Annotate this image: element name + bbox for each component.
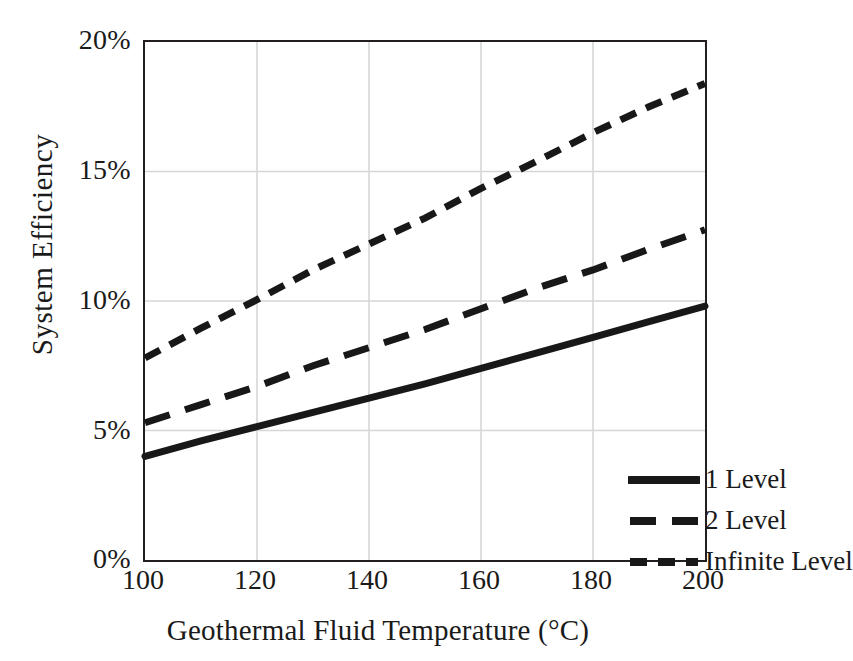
y-axis-title: System Efficiency [26, 35, 59, 455]
x-axis-title: Geothermal Fluid Temperature (°C) [0, 614, 756, 647]
series-line-infinite-level [145, 83, 705, 358]
legend-item-2-level: 2 Level [628, 500, 844, 541]
legend-label-1-level: 1 Level [705, 466, 787, 493]
legend-swatch-solid-icon [628, 470, 700, 490]
x-tick-100: 100 [83, 566, 203, 594]
data-series-layer [145, 42, 705, 560]
x-tick-140: 140 [307, 566, 427, 594]
x-tick-160: 160 [419, 566, 539, 594]
plot-area: 1 Level 2 Level Infinite Level [143, 40, 707, 562]
legend-label-2-level: 2 Level [705, 507, 787, 534]
chart-legend: 1 Level 2 Level Infinite Level [628, 459, 844, 582]
y-axis-tick-labels: 20% 15% 10% 5% 0% [0, 0, 131, 661]
x-tick-120: 120 [195, 566, 315, 594]
legend-swatch-long-dash-icon [628, 511, 700, 531]
legend-item-1-level: 1 Level [628, 459, 844, 500]
x-tick-200: 200 [643, 566, 763, 594]
x-axis-tick-labels: 100 120 140 160 180 200 [0, 566, 756, 610]
x-tick-180: 180 [531, 566, 651, 594]
